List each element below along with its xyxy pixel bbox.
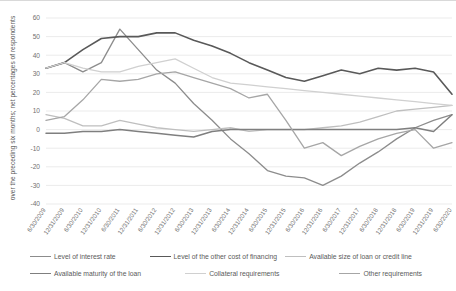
legend-item-level-of-the-other-cost-of-financing[interactable]: Level of the other cost of financing bbox=[150, 252, 278, 261]
y-tick-label: 50 bbox=[33, 33, 41, 40]
legend-row-1: Level of interest rate Level of the othe… bbox=[0, 248, 456, 265]
y-tick-label: 20 bbox=[33, 89, 41, 96]
legend-swatch-icon bbox=[185, 273, 206, 274]
legend-item-available-size-of-loan-or-credit-line[interactable]: Available size of loan or credit line bbox=[285, 252, 412, 261]
legend-item-level-of-interest-rate[interactable]: Level of interest rate bbox=[30, 252, 116, 261]
y-tick-label: 40 bbox=[33, 52, 41, 59]
plot-area: 6050403020100-10-20-30-406/30/200912/31/… bbox=[0, 0, 456, 248]
legend-swatch-icon bbox=[339, 273, 360, 274]
legend-label: Other requirements bbox=[363, 269, 422, 278]
legend-item-collateral-requirements[interactable]: Collateral requirements bbox=[185, 269, 279, 278]
legend-row-2: Available maturity of the loan Collatera… bbox=[0, 265, 456, 282]
chart-container: over the preceding six months; net perce… bbox=[0, 0, 456, 291]
legend-swatch-icon bbox=[30, 256, 51, 257]
legend-label: Available size of loan or credit line bbox=[309, 252, 412, 261]
series-line-2 bbox=[46, 105, 452, 131]
legend-label: Available maturity of the loan bbox=[54, 269, 141, 278]
legend-label: Level of the other cost of financing bbox=[174, 252, 278, 261]
x-tick-label: 6/30/2020 bbox=[431, 206, 453, 233]
series-line-0 bbox=[46, 29, 452, 185]
legend-swatch-icon bbox=[285, 256, 306, 257]
y-tick-label: 10 bbox=[33, 107, 41, 114]
y-tick-label: 0 bbox=[36, 126, 40, 133]
y-tick-label: 60 bbox=[33, 14, 41, 21]
y-tick-label: -10 bbox=[30, 145, 40, 152]
y-tick-label: -40 bbox=[30, 200, 40, 207]
y-tick-label: 30 bbox=[33, 70, 41, 77]
legend-item-other-requirements[interactable]: Other requirements bbox=[339, 269, 422, 278]
legend-label: Level of interest rate bbox=[54, 252, 116, 261]
legend-label: Collateral requirements bbox=[209, 269, 279, 278]
y-tick-label: -20 bbox=[30, 163, 40, 170]
series-line-3 bbox=[46, 115, 452, 137]
x-tick-group: 6/30/2020 bbox=[431, 206, 453, 233]
legend-swatch-icon bbox=[150, 256, 171, 257]
y-tick-label: -30 bbox=[30, 182, 40, 189]
legend-item-available-maturity-of-the-loan[interactable]: Available maturity of the loan bbox=[30, 269, 141, 278]
chart-legend: Level of interest rate Level of the othe… bbox=[0, 248, 456, 291]
legend-swatch-icon bbox=[30, 273, 51, 274]
